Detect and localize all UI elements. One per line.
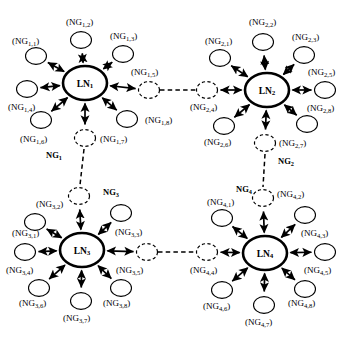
satellite-node-label: (NG3,7) bbox=[63, 313, 90, 324]
spoke-arrow bbox=[38, 251, 56, 252]
spoke-arrow bbox=[80, 209, 81, 229]
gateway-node[interactable] bbox=[139, 82, 160, 99]
satellite-node-label: (NG3,8) bbox=[103, 298, 130, 309]
satellite-node-label: (NG4,6) bbox=[203, 301, 230, 312]
satellite-node-label: (NG2,4) bbox=[190, 102, 217, 113]
satellite-node-label: (NG1,8) bbox=[145, 115, 172, 126]
spoke-arrow bbox=[82, 53, 83, 62]
satellite-node-label: (NG1,2) bbox=[66, 17, 93, 28]
labels-layer: LN1(NG1,1)(NG1,2)(NG1,3)(NG1,4)(NG1,5)(N… bbox=[6, 17, 335, 328]
satellite-node-label: (NG1,1) bbox=[12, 36, 39, 47]
satellite-node[interactable] bbox=[15, 244, 36, 261]
inter-cluster-link[interactable] bbox=[80, 149, 84, 185]
satellite-node[interactable] bbox=[212, 210, 233, 227]
satellite-node-label: (NG3,5) bbox=[116, 265, 143, 276]
satellite-node-label: (NG4,5) bbox=[304, 265, 331, 276]
satellite-node-label: (NG2,8) bbox=[307, 103, 334, 114]
satellite-node[interactable] bbox=[17, 81, 38, 98]
satellite-node-label: (NG2,2) bbox=[249, 17, 276, 28]
satellite-node[interactable] bbox=[71, 32, 92, 49]
spoke-arrow bbox=[98, 266, 111, 279]
satellite-node-label: (NG4,7) bbox=[245, 317, 272, 328]
satellite-node[interactable] bbox=[111, 280, 132, 297]
spoke-arrow bbox=[284, 105, 296, 115]
spoke-arrow bbox=[282, 268, 295, 280]
spoke-arrow bbox=[281, 224, 295, 237]
satellite-node-label: (NG2,1) bbox=[205, 36, 232, 47]
spoke-arrow bbox=[49, 265, 65, 279]
gateway-node[interactable] bbox=[253, 190, 274, 207]
spoke-arrow bbox=[231, 66, 247, 77]
spoke-arrow bbox=[47, 229, 62, 238]
spoke-arrow bbox=[263, 211, 264, 232]
spoke-arrow bbox=[103, 62, 112, 69]
cluster-group-label: NG1 bbox=[46, 150, 62, 161]
satellite-node-label: (NG3,2) bbox=[36, 199, 63, 210]
satellite-node[interactable] bbox=[117, 111, 138, 128]
spoke-arrow bbox=[283, 64, 294, 74]
spoke-arrow bbox=[48, 63, 64, 72]
satellite-node[interactable] bbox=[297, 116, 318, 133]
gateway-node[interactable] bbox=[255, 135, 276, 152]
satellite-node[interactable] bbox=[212, 282, 233, 299]
spoke-arrow bbox=[232, 268, 247, 281]
cluster-group-label: NG4 bbox=[236, 184, 253, 195]
satellite-node[interactable] bbox=[253, 34, 274, 51]
cluster-group-label: NG3 bbox=[103, 187, 119, 198]
spoke-arrow bbox=[266, 110, 267, 129]
satellite-node-label: (NG1,6) bbox=[20, 134, 47, 145]
satellite-node[interactable] bbox=[315, 244, 336, 261]
spoke-arrow bbox=[232, 227, 247, 239]
satellite-node[interactable] bbox=[295, 281, 316, 298]
satellite-node-label: (NG3,6) bbox=[19, 298, 46, 309]
network-diagram: LN1(NG1,1)(NG1,2)(NG1,3)(NG1,4)(NG1,5)(N… bbox=[0, 0, 363, 340]
satellite-node[interactable] bbox=[254, 297, 275, 314]
cluster-group-label: NG2 bbox=[278, 156, 294, 167]
satellite-node[interactable] bbox=[31, 112, 52, 129]
satellite-node-label: (NG3,3) bbox=[115, 227, 142, 238]
spoke-arrow bbox=[102, 98, 116, 110]
satellite-node-label: (NG4,1) bbox=[207, 197, 234, 208]
inter-cluster-link[interactable] bbox=[263, 154, 265, 187]
spoke-arrow bbox=[98, 222, 111, 234]
satellite-node-label: (NG4,2) bbox=[277, 189, 304, 200]
satellite-node-label: (NG2,5) bbox=[308, 67, 335, 78]
satellite-node-label: (NG1,3) bbox=[110, 31, 137, 42]
nodes-layer bbox=[15, 32, 336, 314]
gateway-node[interactable] bbox=[197, 244, 218, 261]
network-diagram-canvas: LN1(NG1,1)(NG1,2)(NG1,3)(NG1,4)(NG1,5)(N… bbox=[0, 0, 363, 340]
satellite-node[interactable] bbox=[210, 50, 231, 67]
spoke-arrow bbox=[51, 98, 67, 112]
satellite-node[interactable] bbox=[111, 205, 132, 222]
satellite-node-label: (NG2,3) bbox=[292, 32, 319, 43]
satellite-node-label: (NG4,3) bbox=[301, 228, 328, 239]
satellite-node[interactable] bbox=[26, 48, 47, 65]
spoke-arrow bbox=[234, 105, 249, 118]
satellite-node-label: (NG1,7) bbox=[100, 134, 127, 145]
satellite-node[interactable] bbox=[113, 46, 134, 63]
satellite-node[interactable] bbox=[294, 47, 315, 64]
satellite-node[interactable] bbox=[29, 280, 50, 297]
spoke-arrow bbox=[40, 86, 59, 88]
satellite-node-label: (NG1,4) bbox=[8, 102, 35, 113]
satellite-node[interactable] bbox=[315, 82, 336, 99]
gateway-node[interactable] bbox=[137, 244, 158, 261]
satellite-node-label: (NG2,6) bbox=[204, 137, 231, 148]
gateway-node[interactable] bbox=[75, 130, 96, 147]
gateway-node[interactable] bbox=[197, 82, 218, 99]
satellite-node-label: (NG4,8) bbox=[288, 298, 315, 309]
satellite-node-label: (NG3,4) bbox=[6, 265, 33, 276]
gateway-node[interactable] bbox=[69, 188, 90, 205]
satellite-node-label: (NG2,7) bbox=[279, 138, 306, 149]
spoke-arrow bbox=[110, 86, 135, 89]
spoke-arrow bbox=[107, 251, 133, 252]
satellite-node-label: (NG4,4) bbox=[190, 265, 217, 276]
spoke-arrow bbox=[264, 55, 265, 69]
satellite-node-label: (NG1,5) bbox=[131, 67, 158, 78]
satellite-node[interactable] bbox=[214, 118, 235, 135]
satellite-node[interactable] bbox=[71, 293, 92, 310]
satellite-node[interactable] bbox=[295, 207, 316, 224]
